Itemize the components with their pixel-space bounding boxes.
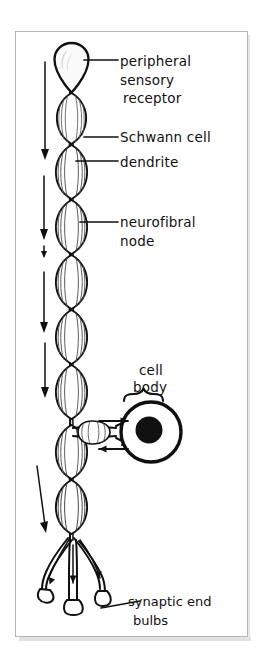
diagram-frame (16, 32, 248, 637)
figure-canvas: peripheral sensory receptor Schwann cell… (0, 0, 264, 664)
label-cell-body-line1: cell (139, 362, 163, 378)
label-peripheral-sensory-receptor-line2: sensory (120, 72, 174, 88)
label-peripheral-sensory-receptor-line1: peripheral (120, 53, 191, 69)
label-peripheral-sensory-receptor-line3: receptor (123, 90, 182, 106)
neuron-diagram: peripheral sensory receptor Schwann cell… (0, 0, 264, 664)
label-dendrite: dendrite (120, 154, 179, 170)
label-neurofibral-node-line1: neurofibral (120, 214, 196, 230)
label-neurofibral-node-line2: node (120, 233, 155, 249)
label-synaptic-end-bulbs-line2: bulbs (133, 613, 168, 628)
label-cell-body: cell body (133, 362, 167, 395)
label-schwann-cell: Schwann cell (120, 129, 211, 145)
label-synaptic-end-bulbs-line1: synaptic end (128, 594, 211, 609)
frame-shadow (19, 637, 251, 641)
label-cell-body-line2: body (133, 379, 167, 395)
cell-body-nucleus (136, 417, 163, 444)
